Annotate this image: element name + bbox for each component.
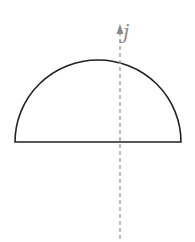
semicircle-shape	[15, 60, 181, 142]
axis-label-j: j	[123, 22, 129, 42]
diagram-canvas	[0, 0, 195, 242]
